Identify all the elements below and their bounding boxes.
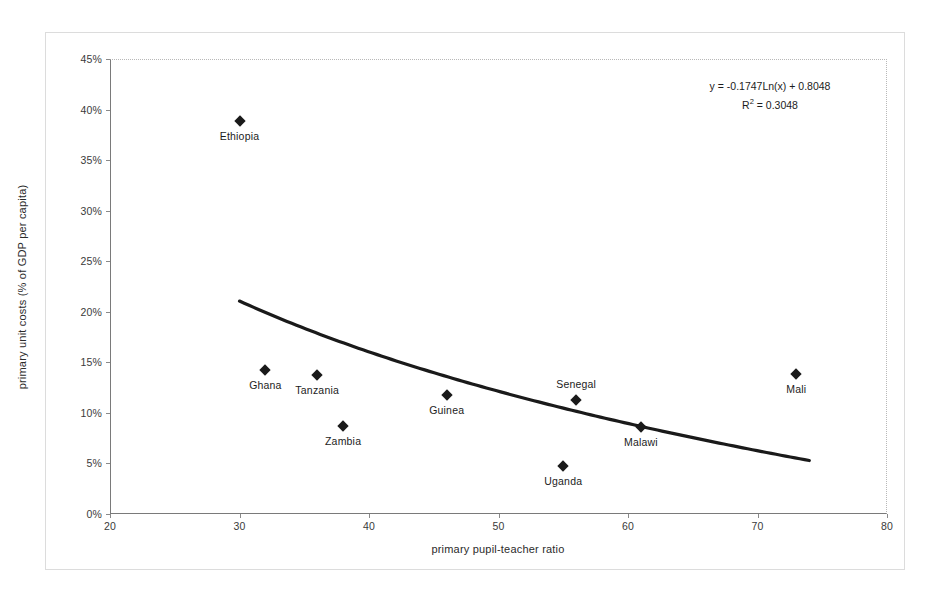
x-axis-tick-mark <box>110 514 111 518</box>
y-axis-tick-mark <box>106 160 110 161</box>
x-axis-tick-mark <box>758 514 759 518</box>
x-axis-tick-label: 60 <box>622 520 634 532</box>
y-axis-title: primary unit costs (% of GDP per capita) <box>16 185 28 390</box>
data-point-label: Ethiopia <box>220 130 260 142</box>
data-point-label: Senegal <box>556 378 596 390</box>
y-axis-tick-label: 0% <box>2 508 110 520</box>
x-axis-tick-label: 20 <box>104 520 116 532</box>
x-axis-title: primary pupil-teacher ratio <box>431 543 564 555</box>
x-axis-tick-label: 50 <box>492 520 504 532</box>
r-squared-exponent: 2 <box>750 97 754 106</box>
data-point-label: Mali <box>786 383 806 395</box>
data-point-label: Guinea <box>429 404 464 416</box>
y-axis-tick-mark <box>106 59 110 60</box>
y-axis-tick-mark <box>106 413 110 414</box>
x-axis-tick-mark <box>240 514 241 518</box>
r-squared-symbol: R <box>742 99 750 111</box>
data-point-label: Malawi <box>624 436 658 448</box>
x-axis-tick-mark <box>887 514 888 518</box>
x-axis-tick-label: 30 <box>233 520 245 532</box>
y-axis-tick-mark <box>106 312 110 313</box>
data-point-label: Tanzania <box>295 384 339 396</box>
r-squared-text: R2 = 0.3048 <box>655 94 885 113</box>
y-axis-tick-mark <box>106 463 110 464</box>
y-axis-tick-label: 45% <box>2 53 110 65</box>
y-axis-tick-mark <box>106 261 110 262</box>
data-point-label: Zambia <box>325 435 361 447</box>
data-point-label: Ghana <box>249 379 282 391</box>
data-point-label: Uganda <box>544 475 582 487</box>
scatter-chart: 0%5%10%15%20%25%30%35%40%45% 20304050607… <box>0 0 952 599</box>
y-axis-tick-mark <box>106 110 110 111</box>
y-axis-tick-mark <box>106 362 110 363</box>
x-axis-tick-label: 40 <box>363 520 375 532</box>
x-axis-tick-mark <box>628 514 629 518</box>
x-axis-tick-mark <box>499 514 500 518</box>
x-axis-tick-label: 70 <box>751 520 763 532</box>
y-axis-tick-label: 10% <box>2 407 110 419</box>
r-squared-value: = 0.3048 <box>757 99 798 111</box>
y-axis-tick-label: 35% <box>2 154 110 166</box>
regression-equation-text: y = -0.1747Ln(x) + 0.8048 <box>655 78 885 94</box>
trendline-equation-annotation: y = -0.1747Ln(x) + 0.8048 R2 = 0.3048 <box>655 78 885 113</box>
x-axis-tick-label: 80 <box>881 520 893 532</box>
y-axis-tick-mark <box>106 211 110 212</box>
x-axis-tick-mark <box>369 514 370 518</box>
y-axis-tick-label: 5% <box>2 457 110 469</box>
y-axis-tick-label: 40% <box>2 104 110 116</box>
plot-area <box>110 59 887 514</box>
